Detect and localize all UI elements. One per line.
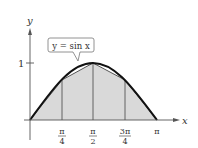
- sine-trapezoid-figure: 1 y x π 4 π 2 3π 4 π y = sin x: [0, 0, 198, 148]
- svg-text:4: 4: [122, 137, 127, 146]
- x-tick-labels: π 4 π 2 3π 4 π: [58, 127, 160, 146]
- y-tick-label: 1: [18, 58, 24, 69]
- y-axis-label: y: [26, 15, 33, 26]
- y-axis-arrow-icon: [28, 28, 32, 35]
- svg-text:π: π: [90, 127, 95, 136]
- x-axis-label: x: [182, 115, 188, 126]
- svg-text:π: π: [154, 127, 159, 136]
- svg-text:2: 2: [90, 137, 95, 146]
- function-label: y = sin x: [51, 41, 90, 51]
- x-axis-arrow-icon: [173, 118, 180, 122]
- function-callout: y = sin x: [48, 38, 94, 61]
- trapezoid-region: [30, 63, 157, 120]
- svg-text:3π: 3π: [120, 127, 130, 136]
- svg-text:π: π: [59, 127, 64, 136]
- svg-text:4: 4: [59, 137, 64, 146]
